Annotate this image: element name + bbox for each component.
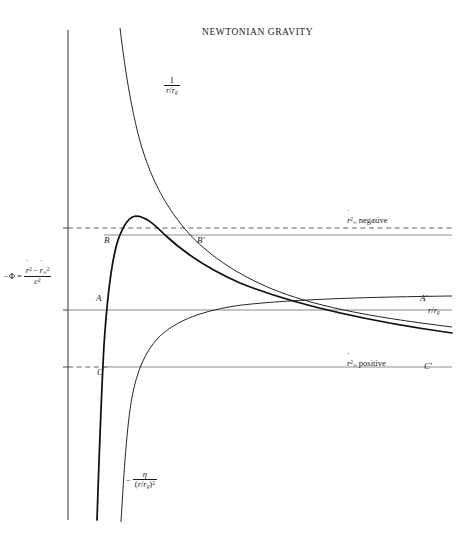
x-axis-label: r/rg <box>428 306 440 316</box>
newtonian-gravity-figure: NEWTONIAN GRAVITY 1 r/rg −Φ = ˙r2−˙r∞2 c… <box>0 0 468 540</box>
annotation-positive-text: positive <box>359 358 386 368</box>
eta-numerator: η <box>133 470 157 479</box>
point-label-A: A <box>96 294 102 303</box>
point-label-B-prime: B' <box>197 236 204 245</box>
point-label-C: C <box>97 368 103 377</box>
annotation-rdot-positive: ˙r2∞ positive <box>347 359 386 369</box>
curve-label-minus-eta: − η (r/rg)2 <box>126 470 157 490</box>
inverse-r-numerator: 1 <box>164 76 180 85</box>
curve-minus-eta-over-r-squared <box>121 296 452 522</box>
equals-symbol: = <box>17 272 22 281</box>
point-label-C-prime: C' <box>424 362 432 371</box>
annotation-rdot-negative: ˙r2∞ negative <box>347 216 388 226</box>
point-label-A-prime: A' <box>420 294 427 303</box>
figure-title: NEWTONIAN GRAVITY <box>202 28 313 38</box>
eta-denominator: (r/rg)2 <box>133 479 157 490</box>
minus-sign-eta: − <box>126 476 131 485</box>
curve-label-inverse-r: 1 r/rg <box>164 76 180 96</box>
inverse-r-denominator: r/rg <box>164 85 180 96</box>
y-axis-numerator: ˙r2−˙r∞2 <box>24 266 51 276</box>
figure-canvas <box>0 0 468 540</box>
minus-phi-symbol: −Φ <box>4 272 15 281</box>
point-label-B: B <box>104 236 110 245</box>
y-axis-denominator: c2 <box>24 276 51 286</box>
annotation-negative-text: negative <box>359 215 388 225</box>
y-axis-label: −Φ = ˙r2−˙r∞2 c2 <box>4 266 51 286</box>
curve-inverse-r <box>120 28 452 327</box>
